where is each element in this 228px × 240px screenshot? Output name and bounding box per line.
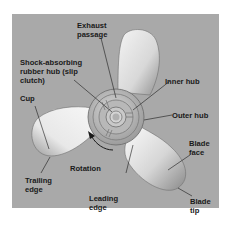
label-shock-absorbing-hub: Shock-absorbing rubber hub (slip clutch) (20, 58, 82, 85)
label-blade-face: Blade face (189, 139, 210, 157)
label-blade-tip: Blade tip (190, 197, 211, 215)
top-blade (118, 30, 159, 95)
label-outer-hub: Outer hub (172, 111, 208, 120)
label-cup: Cup (20, 94, 35, 103)
label-exhaust-passage: Exhaust passage (77, 21, 107, 39)
label-inner-hub: Inner hub (165, 77, 200, 86)
label-rotation: Rotation (70, 164, 101, 173)
label-leading-edge: Leading edge (89, 194, 118, 212)
label-trailing-edge: Trailing edge (25, 176, 52, 194)
